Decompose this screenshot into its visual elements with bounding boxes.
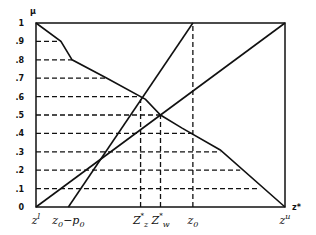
y-axis-label: μ	[30, 7, 36, 16]
x-tick-label: zl	[31, 212, 41, 227]
y-tick-label: .9	[15, 37, 24, 46]
y-tick-label: .2	[15, 166, 24, 175]
y-tick-label: .6	[15, 93, 24, 102]
y-tick-label: 1	[18, 19, 24, 28]
y-tick-label: .3	[15, 148, 24, 157]
dashed-guide-lines	[36, 23, 260, 207]
y-tick-label: .8	[15, 56, 24, 65]
y-tick-label: .4	[15, 129, 24, 138]
x-axis-label: z*	[292, 203, 302, 212]
x-tick-label: Z*z	[132, 212, 149, 229]
y-tick-label: 0	[18, 203, 24, 212]
x-tick-label: z0−p0	[51, 214, 84, 229]
y-tick-label: .7	[15, 74, 24, 83]
y-tick-label: .1	[15, 185, 24, 194]
x-tick-label: Z*w	[150, 212, 169, 229]
x-tick-label: z0	[186, 214, 198, 229]
membership-function-chart: 0.1.2.3.4.5.6.7.8.91 zlz0−p0Z*zZ*wz0zu μ…	[0, 0, 316, 235]
x-axis-labels: zlz0−p0Z*zZ*wz0zu	[31, 212, 291, 229]
y-axis-ticks: 0.1.2.3.4.5.6.7.8.91	[15, 19, 24, 212]
x-tick-label: zu	[279, 212, 291, 227]
y-tick-label: .5	[15, 111, 24, 120]
